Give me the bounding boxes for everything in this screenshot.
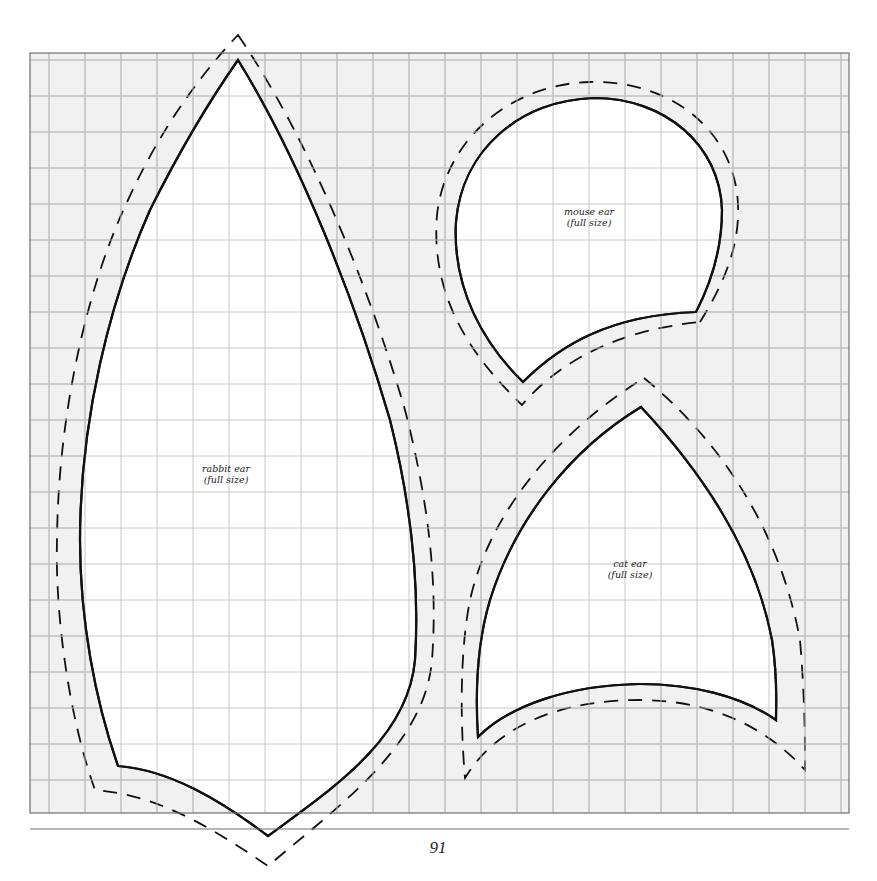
pattern-page: rabbit ear (full size) mouse ear (full s… [0, 0, 877, 881]
cat-ear-title: cat ear [608, 558, 653, 569]
mouse-ear-title: mouse ear [564, 206, 614, 217]
cat-ear-subtitle: (full size) [608, 569, 653, 580]
mouse-ear-label: mouse ear (full size) [564, 206, 614, 228]
rabbit-ear-label: rabbit ear (full size) [202, 463, 250, 485]
rabbit-ear-subtitle: (full size) [202, 474, 250, 485]
pattern-sheet [0, 0, 877, 881]
mouse-ear-subtitle: (full size) [564, 217, 614, 228]
cat-ear-label: cat ear (full size) [608, 558, 653, 580]
rabbit-ear-title: rabbit ear [202, 463, 250, 474]
page-number: 91 [430, 838, 447, 858]
